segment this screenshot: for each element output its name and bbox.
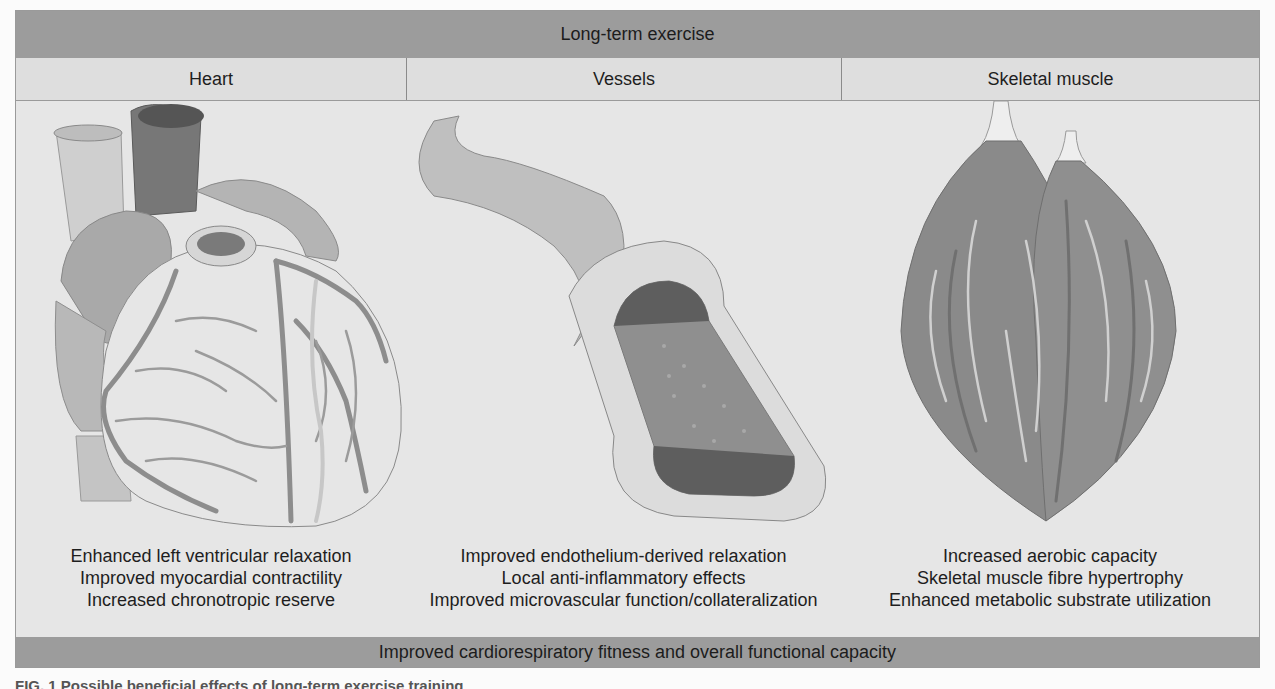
effect-item: Improved myocardial contractility (80, 567, 342, 589)
effect-item: Local anti-inflammatory effects (502, 567, 746, 589)
top-banner-label: Long-term exercise (560, 24, 714, 45)
column-header-heart-label: Heart (189, 69, 233, 90)
effect-item: Enhanced metabolic substrate utilization (889, 589, 1211, 611)
skeletal-muscle-illustration (876, 101, 1196, 541)
effect-item: Improved endothelium-derived relaxation (460, 545, 786, 567)
effects-row: Enhanced left ventricular relaxation Imp… (16, 533, 1259, 636)
effect-item: Increased chronotropic reserve (87, 589, 335, 611)
effect-item: Skeletal muscle fibre hypertrophy (917, 567, 1183, 589)
bottom-banner: Improved cardiorespiratory fitness and o… (16, 637, 1259, 667)
effect-item: Increased aerobic capacity (943, 545, 1157, 567)
effect-item: Improved microvascular function/collater… (429, 589, 817, 611)
bottom-banner-label: Improved cardiorespiratory fitness and o… (379, 642, 896, 663)
column-header-heart: Heart (16, 58, 406, 100)
heart-illustration (16, 101, 416, 531)
illustrations-area (16, 101, 1259, 531)
figure-caption: FIG. 1 Possible beneficial effects of lo… (15, 678, 463, 689)
skeletal-muscle-effects-list: Increased aerobic capacity Skeletal musc… (841, 533, 1259, 636)
column-header-skeletal-muscle-label: Skeletal muscle (987, 69, 1113, 90)
blood-vessel-illustration (404, 46, 844, 526)
effect-item: Enhanced left ventricular relaxation (70, 545, 351, 567)
vessels-effects-list: Improved endothelium-derived relaxation … (406, 533, 841, 636)
heart-effects-list: Enhanced left ventricular relaxation Imp… (16, 533, 406, 636)
exercise-effects-figure: Long-term exercise Heart Vessels Skeleta… (15, 10, 1260, 668)
column-header-skeletal-muscle: Skeletal muscle (841, 58, 1259, 100)
